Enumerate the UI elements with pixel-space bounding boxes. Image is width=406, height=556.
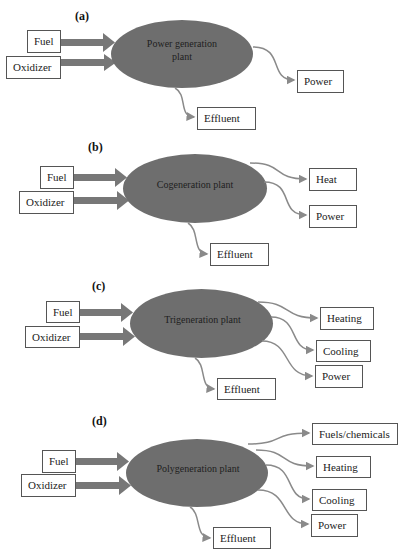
- plant-name-line-2: plant: [132, 50, 232, 63]
- oxidizer-box: Oxidizer: [19, 191, 74, 214]
- power-box: Power: [309, 205, 357, 228]
- effluent-box: Effluent: [217, 378, 276, 400]
- plant-name-line-1: Power generation: [132, 37, 232, 50]
- fuel-input-arrow: [75, 452, 129, 471]
- panel-label: (d): [92, 414, 107, 429]
- oxidizer-box: Oxidizer: [25, 326, 80, 348]
- power-output-arrow: [262, 341, 312, 376]
- plant-name: Polygeneration plant: [143, 462, 253, 475]
- effluent-box: Effluent: [210, 243, 269, 266]
- fuel-box: Fuel: [42, 450, 76, 473]
- oxidizer-input-arrow: [60, 54, 116, 71]
- panel-a: [60, 20, 294, 117]
- fuel-box: Fuel: [46, 301, 80, 323]
- cooling-box: Cooling: [316, 340, 371, 362]
- panel-d: [75, 433, 313, 538]
- panel-label: (c): [92, 279, 105, 294]
- heat-box: Heat: [309, 168, 357, 191]
- panel-b: [73, 154, 306, 254]
- heating-box: Heating: [320, 307, 374, 330]
- plant-name: Trigeneration plant: [150, 313, 255, 326]
- panel-label: (a): [75, 9, 89, 24]
- power-output-arrow: [264, 182, 306, 215]
- panel-c: [79, 289, 317, 389]
- effluent-box: Effluent: [213, 527, 271, 549]
- oxidizer-input-arrow: [73, 191, 129, 210]
- effluent-output-arrow: [188, 223, 207, 254]
- fuel-box: Fuel: [40, 166, 74, 189]
- fuel-box: Fuel: [27, 30, 61, 53]
- power-output-arrow: [253, 47, 294, 80]
- power-box: Power: [315, 365, 363, 388]
- fuels-chemicals-box: Fuels/chemicals: [312, 423, 398, 445]
- panel-label: (b): [88, 140, 103, 155]
- power-box: Power: [297, 70, 344, 93]
- plant-name: Cogeneration plant: [140, 178, 250, 191]
- fuel-input-arrow: [73, 168, 127, 187]
- effluent-output-arrow: [195, 358, 214, 389]
- oxidizer-input-arrow: [79, 327, 135, 346]
- power-box: Power: [311, 514, 358, 537]
- fuel-input-arrow: [60, 33, 115, 52]
- cooling-box: Cooling: [312, 489, 367, 511]
- fuel-input-arrow: [79, 303, 133, 322]
- plant-name: Power generation plant: [132, 37, 232, 63]
- oxidizer-input-arrow: [75, 476, 131, 495]
- power-output-arrow: [258, 490, 308, 524]
- effluent-output-arrow: [175, 88, 194, 117]
- oxidizer-box: Oxidizer: [6, 56, 61, 79]
- fuels-chemicals-output-arrow: [248, 433, 309, 444]
- effluent-output-arrow: [190, 507, 210, 538]
- effluent-box: Effluent: [197, 107, 256, 130]
- heating-box: Heating: [316, 456, 371, 478]
- oxidizer-box: Oxidizer: [21, 474, 76, 497]
